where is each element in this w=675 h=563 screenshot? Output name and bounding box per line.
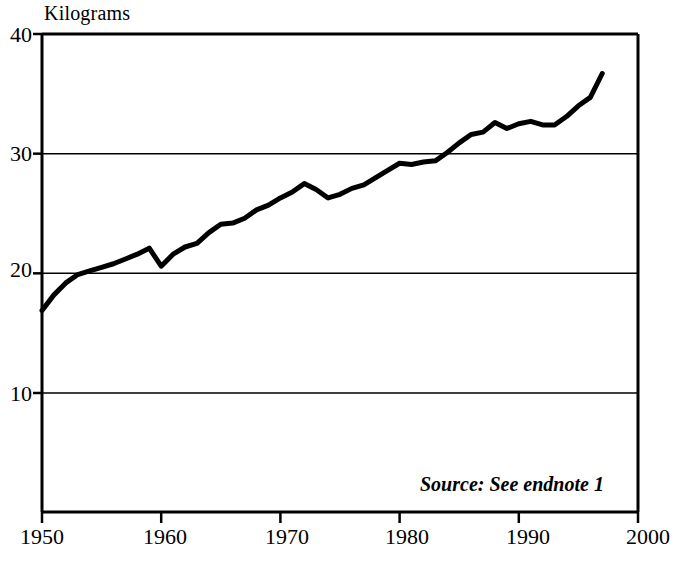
axis-ticks-group — [33, 34, 638, 523]
gridlines-group — [42, 154, 638, 393]
plot-area — [0, 0, 675, 563]
chart-figure: Kilograms 40 30 20 10 1950 1960 1970 198… — [0, 0, 675, 563]
data-line-series-kilograms — [42, 73, 602, 310]
